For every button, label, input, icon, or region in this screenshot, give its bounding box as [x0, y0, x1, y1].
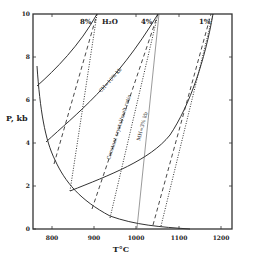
y-tick-10: 10 [22, 10, 30, 17]
y-tick-4: 4 [26, 139, 30, 146]
x-tick-800: 800 [46, 234, 59, 241]
y-axis-title: P, kb [6, 113, 28, 123]
label-ch: CH=10% kb [97, 66, 122, 93]
x-tick-1100: 1100 [171, 234, 188, 241]
label-4pct: 4% [141, 17, 153, 26]
curve-1pct [70, 14, 213, 191]
x-tick-900: 900 [88, 234, 101, 241]
phase-diagram: 0 2 4 6 8 10 800 900 1000 1100 1200 T°C … [0, 0, 255, 256]
y-tick-0: 0 [26, 225, 30, 232]
x-tick-1200: 1200 [213, 234, 230, 241]
y-tick-6: 6 [26, 96, 30, 103]
y-tick-2: 2 [26, 182, 30, 189]
label-crystal-melt: Constant crystal/melt ratio [105, 94, 133, 161]
x-axis-title: T°C [113, 244, 129, 254]
dotted-4pct [110, 14, 158, 218]
label-8pct: 8% [80, 17, 92, 26]
label-h2o: H₂O [102, 17, 118, 26]
x-tick-1000: 1000 [128, 234, 145, 241]
label-1pct: 1% [199, 17, 211, 26]
y-ticks [33, 57, 232, 229]
dotted-8pct [70, 14, 97, 191]
chart-root: 0 2 4 6 8 10 800 900 1000 1100 1200 T°C … [0, 0, 255, 256]
dotted-1pct [161, 14, 213, 226]
dashed-8pct [54, 14, 97, 164]
dashed-1pct [153, 14, 211, 225]
y-tick-8: 8 [26, 53, 30, 60]
